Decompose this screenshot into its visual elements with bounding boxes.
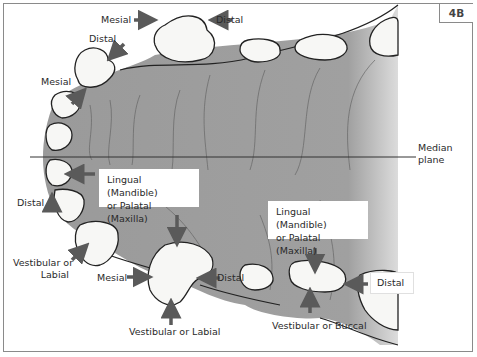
label-canine-distal-bottom: Distal <box>217 272 244 284</box>
label-premolar-distal: Distal <box>370 272 414 294</box>
label-incisor-mesial: Mesial <box>41 76 71 88</box>
panel-label: 4B <box>439 4 473 23</box>
tooth-canine-top <box>154 16 214 62</box>
label-vestibular-labial-left: Vestibular or Labial <box>13 257 69 281</box>
tooth-premolar-top-1 <box>240 39 280 62</box>
tooth-premolar-top-2 <box>295 34 347 60</box>
median-plane-label-line2: plane <box>418 154 453 166</box>
label-top-mesial: Mesial <box>101 14 131 26</box>
tooth-canine-bottom <box>148 242 213 305</box>
label-vestibular-labial-bottom: Vestibular or Labial <box>129 326 220 338</box>
lingual-palatal-box-right: Lingual (Mandible) or Palatal (Maxilla) <box>268 201 368 239</box>
tooth-molar-top <box>370 17 398 56</box>
median-plane-label: Median plane <box>418 142 453 166</box>
label-left-distal: Distal <box>17 197 44 209</box>
lingual-box-right-line2: or Palatal (Maxilla) <box>276 231 360 257</box>
vestibular-labial-left-line2: Labial <box>13 269 69 281</box>
label-canine-distal: Distal <box>89 33 116 45</box>
lingual-box-right-line1: Lingual (Mandible) <box>276 205 360 231</box>
vestibular-labial-left-line1: Vestibular or <box>13 257 69 269</box>
lingual-box-left-line2: or Palatal (Maxilla) <box>107 199 191 225</box>
tooth-lateral-bottom <box>75 222 118 266</box>
tooth-incisor-bottom-1 <box>46 159 72 185</box>
lingual-palatal-box-left: Lingual (Mandible) or Palatal (Maxilla) <box>99 169 199 207</box>
lingual-box-left-line1: Lingual (Mandible) <box>107 173 191 199</box>
median-plane-label-line1: Median <box>418 142 453 154</box>
dental-arch-diagram <box>0 0 477 357</box>
label-top-distal: Distal <box>216 14 243 26</box>
label-vestibular-buccal: Vestibular or Buccal <box>272 320 367 332</box>
label-canine-mesial: Mesial <box>97 272 127 284</box>
